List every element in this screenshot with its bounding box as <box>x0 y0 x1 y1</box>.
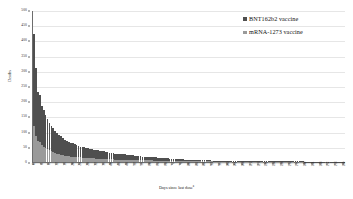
y-tick-mark <box>28 41 30 42</box>
y-tick-mark <box>28 132 30 133</box>
chart-legend: BNT162b2 vaccinemRNA-1273 vaccine <box>243 16 349 42</box>
y-tick-mark <box>28 26 30 27</box>
legend-label: BNT162b2 vaccine <box>249 16 298 22</box>
y-tick-mark <box>28 87 30 88</box>
y-tick-label: 0 <box>25 161 27 165</box>
y-tick-mark <box>28 71 30 72</box>
chart-figure: Deaths 050100150200250300350400450500 04… <box>0 0 353 199</box>
x-axis-ticks: 0481216202428323640444852566064687276808… <box>32 163 345 180</box>
y-axis-ticks: 050100150200250300350400450500 <box>0 11 30 163</box>
y-tick-mark <box>28 163 30 164</box>
y-tick-label: 350 <box>21 55 27 59</box>
legend-item[interactable]: mRNA-1273 vaccine <box>243 29 349 35</box>
legend-label: mRNA-1273 vaccine <box>249 29 303 35</box>
x-tick-label: 160 <box>343 162 346 167</box>
y-tick-mark <box>28 117 30 118</box>
x-axis-title-superscript: a <box>193 184 194 188</box>
y-tick-mark <box>28 102 30 103</box>
y-tick-label: 250 <box>21 85 27 89</box>
y-tick-mark <box>28 147 30 148</box>
legend-swatch-icon <box>243 31 247 35</box>
y-tick-label: 200 <box>21 100 27 104</box>
y-tick-mark <box>28 11 30 12</box>
y-tick-label: 400 <box>21 40 27 44</box>
y-tick-label: 150 <box>21 116 27 120</box>
y-tick-label: 300 <box>21 70 27 74</box>
y-tick-label: 450 <box>21 24 27 28</box>
y-tick-label: 100 <box>21 131 27 135</box>
legend-swatch-icon <box>243 17 247 21</box>
y-tick-mark <box>28 56 30 57</box>
x-axis-title: Days since last dosea <box>0 184 353 190</box>
x-tick-slot: 160 <box>342 163 344 180</box>
y-tick-label: 50 <box>23 146 27 150</box>
legend-item[interactable]: BNT162b2 vaccine <box>243 16 349 22</box>
y-tick-label: 500 <box>21 9 27 13</box>
